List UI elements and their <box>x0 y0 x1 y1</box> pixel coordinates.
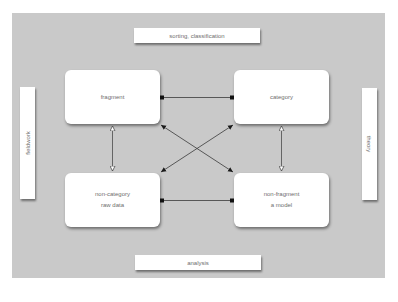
label-sorting-classification: sorting, classification <box>134 28 260 43</box>
node-raw-data-label: raw data <box>101 200 124 211</box>
node-fragment: fragment <box>65 70 160 124</box>
node-fragment-label: fragment <box>101 92 125 103</box>
node-non-category-label: non-category <box>95 189 130 200</box>
label-fieldwork: fieldwork <box>20 87 35 199</box>
node-category-label: category <box>270 92 293 103</box>
label-right-text: theory <box>367 136 373 153</box>
label-analysis: analysis <box>135 255 261 270</box>
diagram-panel <box>12 13 385 278</box>
label-top-text: sorting, classification <box>169 33 224 39</box>
node-non-category-raw-data: non-category raw data <box>65 173 160 227</box>
node-non-fragment-label: non-fragment <box>264 189 300 200</box>
label-theory: theory <box>362 88 377 200</box>
label-left-text: fieldwork <box>25 131 31 155</box>
node-non-fragment-a-model: non-fragment a model <box>234 173 329 227</box>
label-bottom-text: analysis <box>187 260 209 266</box>
node-a-model-label: a model <box>271 200 292 211</box>
node-category: category <box>234 70 329 124</box>
